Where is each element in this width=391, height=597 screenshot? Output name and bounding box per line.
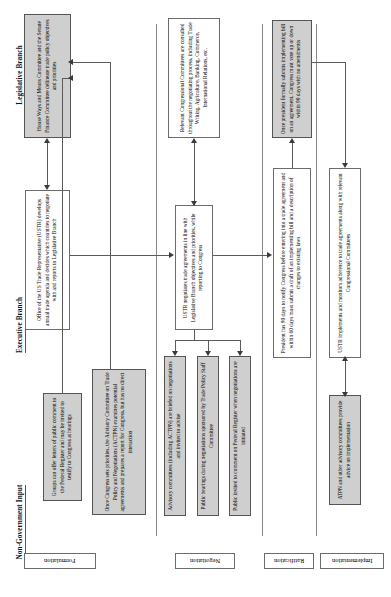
connector-submits-to-implements-h [312, 62, 345, 63]
node-ustr-implements[interactable]: USTR implements and monitors adherence t… [329, 168, 361, 358]
node-congressional-committees-text: Relevant Congressional Committees are co… [179, 21, 210, 135]
arrow-implements-to-atpn-head [342, 392, 348, 397]
phase-divider-3 [316, 24, 317, 536]
phase-divider-2 [262, 24, 263, 536]
node-advisory-briefed[interactable]: Advisory committees (including ACTPN) ar… [164, 356, 186, 516]
node-president-notify[interactable]: President has 90 days to notify Congress… [273, 168, 311, 358]
connector-ustr-to-waysmeans [47, 140, 48, 188]
connector-actpn-v [110, 62, 111, 370]
diagram-canvas: Legislative Branch Executive Branch Non-… [0, 0, 391, 597]
arrow-committees-to-ustrneg-head [191, 201, 197, 206]
node-actpn-formulation[interactable]: Once Congress sets priorities, the Advis… [92, 369, 146, 515]
phase-label-formulation-text: Formulation [44, 558, 76, 565]
node-atpn-advice[interactable]: ATPN and other advisory committees provi… [329, 395, 361, 505]
arrow-ustr-to-waysmeans-head [44, 138, 50, 143]
phase-label-negotiation-text: Negotiation [190, 558, 220, 565]
arrow-fanout-3-head [237, 351, 243, 356]
node-ways-means-text: House Ways and Means Committee and the S… [36, 17, 59, 135]
arrow-notify-to-submits-head [289, 138, 295, 143]
arrow-fanout-1-head [172, 351, 178, 356]
node-congressional-committees[interactable]: Relevant Congressional Committees are co… [168, 18, 220, 138]
node-president-submits-text: Once president formally submits implemen… [280, 23, 303, 135]
node-president-notify-text: President has 90 days to notify Congress… [280, 171, 303, 355]
phase-label-implementation: Implementation [320, 553, 384, 569]
node-public-comment[interactable]: Public invited to comment on Federal Reg… [229, 356, 251, 516]
lane-header-nongov-label: Non-Government Input [16, 485, 26, 560]
node-ustr-formulation-text: Office of the US Trade Representative (U… [36, 193, 59, 327]
phase-label-ratification: Ratification [264, 553, 314, 569]
node-ways-means[interactable]: House Ways and Means Committee and the S… [24, 14, 71, 138]
node-atpn-advice-text: ATPN and other advisory committees provi… [337, 398, 352, 503]
phase-divider-1 [156, 24, 157, 536]
arrow-negotiation-to-ratification-head [267, 252, 272, 258]
node-advisory-briefed-text: Advisory committees (including ACTPN) ar… [167, 359, 182, 514]
node-public-hearings[interactable]: Public hearings during negotiations spon… [197, 356, 219, 516]
arrow-fanout-2-head [205, 351, 211, 356]
connector-public-letters-v [62, 78, 63, 394]
node-public-letters-text: Groups can offer letters of public comme… [51, 396, 74, 499]
connector-ustrneg-to-committees [194, 140, 195, 206]
connector-submits-to-implements-v [345, 62, 346, 166]
connector-actpn-h [71, 62, 110, 63]
lane-header-nongov: Non-Government Input [14, 447, 28, 597]
arrow-ustrneg-to-committees-head [191, 138, 197, 143]
node-public-hearings-text: Public hearings during negotiations spon… [200, 359, 215, 514]
connector-negotiation-to-ratification [213, 255, 269, 256]
phase-label-implementation-text: Implementation [332, 558, 372, 565]
node-ustr-formulation[interactable]: Office of the US Trade Representative (U… [25, 190, 70, 330]
node-public-letters[interactable]: Groups can offer letters of public comme… [43, 393, 82, 501]
arrow-actpn-head [68, 59, 73, 65]
connector-formulation-to-negotiation [70, 255, 170, 256]
arrow-atpn-to-implements-head [342, 356, 348, 361]
connector-notify-to-submits [292, 140, 293, 168]
arrow-submits-to-implements-head [342, 163, 348, 168]
node-president-submits[interactable]: Once president formally submits implemen… [272, 20, 312, 138]
phase-label-formulation: Formulation [24, 553, 96, 569]
arrow-waysmeans-to-ustr-head [44, 185, 50, 190]
connector-ustrneg-fanout-stem [194, 330, 195, 340]
arrow-formulation-to-negotiation-head [169, 252, 174, 258]
connector-atpn-to-implements [345, 358, 346, 395]
node-ustr-negotiates-text: USTR negotiates trade agreements in line… [182, 208, 205, 328]
arrow-public-letters-head [68, 75, 73, 81]
node-public-comment-text: Public invited to comment on Federal Reg… [232, 359, 247, 514]
node-ustr-implements-text: USTR implements and monitors adherence t… [337, 171, 352, 355]
phase-label-ratification-text: Ratification [274, 558, 304, 565]
phase-label-negotiation: Negotiation [175, 553, 235, 569]
node-ustr-negotiates[interactable]: USTR negotiates trade agreements in line… [175, 205, 213, 330]
node-actpn-formulation-text: Once Congress sets priorities, the Advis… [104, 372, 135, 512]
